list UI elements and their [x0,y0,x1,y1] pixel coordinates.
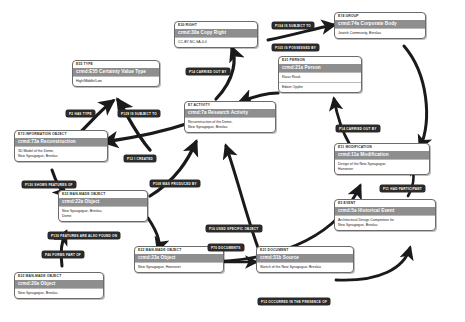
node-e74-group[interactable]: E74 GROUP crmd:74a Corporate Body Jewish… [334,12,426,39]
diagram-canvas: E55 TYPE crmd:E55 Certainty Value Type H… [0,0,465,322]
node-title: crmd:73a Reconstruction [15,138,107,146]
relation-label-p2-has-type[interactable]: P2 HAS TYPE [66,110,95,117]
relation-label-p16-used-specific-object[interactable]: P16 USED SPECIFIC OBJECT [206,225,262,232]
relation-label-p12-occurred-in-presence-of[interactable]: P12 OCCURRED IN THE PRESENCE OF [258,298,330,305]
relation-label-p14-carried-out-by-1[interactable]: P14 CARRIED OUT BY [186,68,230,75]
node-title: crmd:23a Object [135,254,223,262]
relation-label-p46-forms-part-of[interactable]: P46 FORMS PART OF [42,251,84,258]
node-body: Architectural Design Competition for New… [335,215,435,230]
node-e22-object-breslau[interactable]: E22 MAN-MADE OBJECT crmd:20a Object New … [14,272,104,299]
node-body: New Synagogue, Hannover [135,262,223,272]
node-e7-activity[interactable]: E7 ACTIVITY crmd:7a Research Activity Re… [184,101,276,133]
node-title: crmd:7a Research Activity [185,109,275,117]
relation-label-p70-documents[interactable]: P70 DOCUMENTS [208,244,244,251]
node-title: crmd:22a Object [59,198,147,206]
node-body: 3D Model of the Dome, New Synagogue, Bre… [15,146,107,161]
node-body: High/Middle/Low [73,76,159,86]
relation-label-p105-is-possessed-by[interactable]: P105 IS POSSESSED BY [272,44,319,51]
node-body: Design of the New Synagogue, Hannover [335,159,429,174]
node-e30-right[interactable]: E30 RIGHT crmd:30a Copy Right CC-BY-NC-S… [174,21,258,48]
node-title: crmd:30a Copy Right [175,29,257,37]
relation-label-p130-shows-features-of[interactable]: P130 SHOWS FEATURES OF [22,181,76,188]
node-body-secondary: Edwin Oppler [279,82,361,92]
relation-label-p14-carried-out-by-2[interactable]: P14 CARRIED OUT BY [336,125,380,132]
node-body: Reconstruction of the Dome, New Synagogu… [185,117,275,132]
relation-label-p129-is-subject-to[interactable]: P129 IS SUBJECT TO [118,110,160,117]
relation-label-p104-is-subject-to[interactable]: P104 IS SUBJECT TO [272,22,314,29]
node-e11-modification[interactable]: E11 MODIFICATION crmd:11a Modification D… [334,143,430,175]
node-title: crmd:5a Historical Event [335,207,435,215]
node-body: New Synagogue, Breslau [15,288,103,298]
node-title: crmd:E55 Certainty Value Type [73,68,159,76]
relation-label-p130-features-also-found-on[interactable]: P130 FEATURES ARE ALSO FOUND ON [48,232,120,239]
node-e5-event[interactable]: E5 EVENT crmd:5a Historical Event Archit… [334,199,436,231]
node-title: crmd:20a Object [15,280,103,288]
node-title: crmd:31b Source [257,254,353,262]
node-title: crmd:21a Person [279,64,361,72]
node-e55-type[interactable]: E55 TYPE crmd:E55 Certainty Value Type H… [72,60,160,87]
node-body: Jewish Community, Breslau [335,28,425,38]
node-e21-person[interactable]: E21 PERSON crmd:21a Person Klaus Rivak E… [278,56,362,93]
node-body: New Synagogue, Breslau, Dome [59,206,147,221]
node-e31-document[interactable]: E31 DOCUMENT crmd:31b Source Sketch of t… [256,246,354,273]
node-body: Klaus Rivak [279,72,361,82]
relation-label-p11-had-participant[interactable]: P11 HAD PARTICIPANT [380,185,425,192]
relation-label-p12-i-created[interactable]: P12 I CREATED [124,155,156,162]
node-title: crmd:74a Corporate Body [335,20,425,28]
node-title: crmd:11a Modification [335,151,429,159]
relation-label-p108-was-produced-by[interactable]: P108 WAS PRODUCED BY [150,180,200,187]
node-e22-object-dome[interactable]: E22 MAN-MADE OBJECT crmd:22a Object New … [58,190,148,222]
node-body: Sketch of the New Synagogue, Breslau [257,262,353,272]
node-body: CC-BY-NC-SA-4.0 [175,37,257,47]
node-e73-information-object[interactable]: E73 INFORMATION OBJECT crmd:73a Reconstr… [14,130,108,162]
